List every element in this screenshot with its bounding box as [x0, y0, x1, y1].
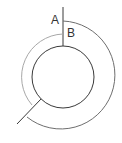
central-circle [32, 46, 94, 108]
label-a: A [51, 13, 59, 27]
circular-diagram: A B [0, 0, 122, 143]
label-b: B [67, 26, 75, 40]
diagonal-reference-line [17, 99, 41, 124]
arc-b [22, 34, 63, 105]
